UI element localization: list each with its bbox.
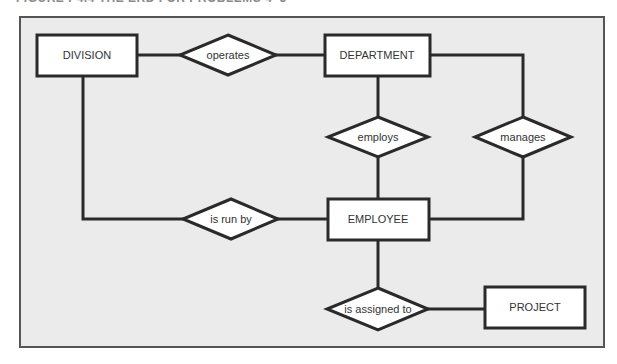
relationship-label: operates bbox=[207, 49, 250, 61]
diagram-canvas: FIGURE P4.4 THE ERD FOR PROBLEMS 4–5 DIV… bbox=[0, 0, 617, 364]
entity-division[interactable]: DIVISION bbox=[37, 35, 137, 76]
relationship-is-run-by[interactable]: is run by bbox=[183, 199, 278, 239]
entity-label: EMPLOYEE bbox=[348, 213, 409, 225]
connector-division-is-run-by bbox=[83, 76, 184, 219]
entity-label: PROJECT bbox=[509, 301, 561, 313]
relationship-label: employs bbox=[358, 131, 399, 143]
entity-label: DIVISION bbox=[63, 49, 111, 61]
relationship-manages[interactable]: manages bbox=[475, 117, 571, 157]
erd-diagram: DIVISION DEPARTMENT EMPLOYEE PROJECT ope… bbox=[0, 0, 617, 364]
connector-department-manages bbox=[430, 55, 523, 118]
relationship-is-assigned-to[interactable]: is assigned to bbox=[327, 288, 428, 330]
relationship-operates[interactable]: operates bbox=[180, 35, 276, 75]
relationship-label: manages bbox=[500, 131, 546, 143]
entity-employee[interactable]: EMPLOYEE bbox=[328, 199, 429, 240]
connector-manages-employee bbox=[429, 156, 523, 219]
relationship-employs[interactable]: employs bbox=[328, 117, 428, 157]
entity-project[interactable]: PROJECT bbox=[485, 287, 585, 328]
entity-department[interactable]: DEPARTMENT bbox=[325, 35, 430, 76]
relationship-label: is assigned to bbox=[344, 303, 411, 315]
relationship-label: is run by bbox=[210, 213, 252, 225]
entity-label: DEPARTMENT bbox=[340, 49, 415, 61]
